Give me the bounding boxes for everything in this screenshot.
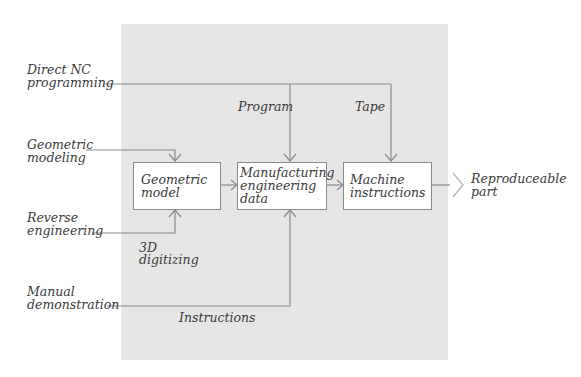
edge-label-program: Program xyxy=(238,101,293,113)
box-geometric-model: Geometric model xyxy=(133,162,221,210)
edge-label-digitizing: digitizing xyxy=(139,254,199,266)
edge-label-tape: Tape xyxy=(355,101,385,113)
label-manual-demonstration-line2: demonstration xyxy=(27,299,119,311)
label-reverse-engineering-line2: engineering xyxy=(27,225,103,237)
box-label-line3: data xyxy=(240,193,268,205)
label-direct-nc-line2: programming xyxy=(27,77,114,89)
edge-label-instructions: Instructions xyxy=(179,312,255,324)
box-label-line2: instructions xyxy=(350,187,426,199)
label-geometric-modeling-line2: modeling xyxy=(27,152,86,164)
output-label-line2: part xyxy=(471,186,497,198)
box-manufacturing-engineering-data: Manufacturing engineering data xyxy=(237,162,327,210)
nc-programming-diagram: Direct NC programming Geometric modeling… xyxy=(0,0,581,377)
box-label-line2: model xyxy=(141,187,180,199)
box-machine-instructions: Machine instructions xyxy=(343,162,432,210)
